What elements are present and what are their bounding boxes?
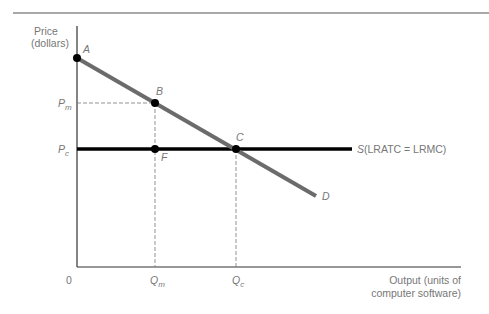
qc-tick: Qc — [232, 274, 244, 289]
point-a-label: A — [82, 43, 90, 55]
qc-tick-sub: c — [240, 280, 244, 289]
demand-line — [77, 58, 316, 196]
point-b-label: B — [156, 85, 163, 97]
origin-label: 0 — [66, 274, 72, 286]
point-f-marker — [151, 145, 159, 153]
supply-label-rest: (LRATC = LRMC) — [364, 143, 446, 155]
economics-diagram: Price (dollars) A B C F D S(LRATC = LRMC… — [0, 0, 489, 314]
point-f-label: F — [161, 151, 168, 163]
y-axis-title-line2: (dollars) — [31, 37, 69, 49]
qm-tick: Qm — [150, 274, 165, 289]
point-a-marker — [73, 54, 81, 62]
point-c-marker — [232, 145, 240, 153]
point-b-marker — [151, 99, 159, 107]
x-axis-title-line2: computer software) — [371, 287, 461, 299]
pc-tick-main: P — [58, 143, 65, 155]
point-c-label: C — [236, 131, 244, 143]
supply-label: S(LRATC = LRMC) — [357, 143, 446, 155]
supply-label-prefix: S — [357, 143, 364, 155]
demand-label: D — [322, 190, 330, 202]
qm-tick-sub: m — [158, 280, 165, 289]
pm-tick-sub: m — [65, 103, 72, 112]
pm-tick: Pm — [58, 97, 72, 112]
qm-tick-main: Q — [150, 274, 158, 286]
pc-tick: Pc — [58, 143, 69, 158]
pm-tick-main: P — [58, 97, 65, 109]
y-axis-title-line1: Price — [34, 25, 58, 37]
pc-tick-sub: c — [65, 149, 69, 158]
x-axis-title-line1: Output (units of — [389, 274, 461, 286]
qc-tick-main: Q — [232, 274, 240, 286]
